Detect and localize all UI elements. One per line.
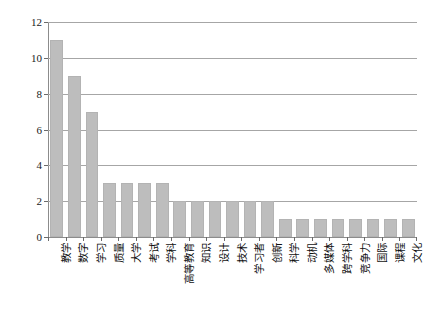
bar xyxy=(244,201,257,237)
x-tick-label: 文化 xyxy=(413,243,424,263)
x-tick-mark xyxy=(347,237,348,241)
bar xyxy=(156,183,169,237)
bar xyxy=(367,219,380,237)
x-tick-mark xyxy=(364,237,365,241)
x-tick-mark xyxy=(83,237,84,241)
bar xyxy=(68,76,81,237)
x-tick-label: 创新 xyxy=(273,243,284,263)
y-tick-label: 10 xyxy=(31,52,42,63)
x-tick-mark xyxy=(48,237,49,241)
x-tick-label: 考试 xyxy=(150,243,161,263)
plot-area xyxy=(48,22,417,237)
x-tick-mark xyxy=(312,237,313,241)
bar xyxy=(191,201,204,237)
x-axis-labels: 教学数字学习质量大学考试学科高等教育知识设计技术学习者创新科学动机多媒体跨学科竞… xyxy=(48,243,417,312)
bar xyxy=(138,183,151,237)
x-tick-mark xyxy=(241,237,242,241)
y-tick-label: 0 xyxy=(37,232,43,243)
x-tick-label: 学科 xyxy=(167,243,178,263)
x-tick-label: 学习 xyxy=(97,243,108,263)
bar xyxy=(209,201,222,237)
x-tick-mark xyxy=(259,237,260,241)
x-tick-label: 国际 xyxy=(378,243,389,263)
bar xyxy=(314,219,327,237)
x-tick-mark xyxy=(294,237,295,241)
x-tick-label: 高等教育 xyxy=(185,243,196,284)
bar xyxy=(103,183,116,237)
x-tick-mark xyxy=(101,237,102,241)
x-tick-label: 课程 xyxy=(396,243,407,263)
bar xyxy=(173,201,186,237)
x-tick-label: 竞争力 xyxy=(361,243,372,274)
x-tick-label: 质量 xyxy=(115,243,126,263)
x-tick-label: 教学 xyxy=(62,243,73,263)
x-tick-mark xyxy=(416,237,417,241)
x-tick-label: 动机 xyxy=(308,243,319,263)
bars-group xyxy=(48,22,417,237)
bar xyxy=(261,201,274,237)
x-tick-label: 学习者 xyxy=(255,243,266,274)
x-tick-mark xyxy=(171,237,172,241)
x-tick-label: 科学 xyxy=(290,243,301,263)
x-tick-mark xyxy=(329,237,330,241)
bar xyxy=(50,40,63,237)
bar xyxy=(349,219,362,237)
x-tick-label: 跨学科 xyxy=(343,243,354,274)
x-tick-mark xyxy=(66,237,67,241)
bar xyxy=(296,219,309,237)
x-tick-label: 知识 xyxy=(202,243,213,263)
y-tick-label: 2 xyxy=(37,196,43,207)
bar xyxy=(402,219,415,237)
x-tick-label: 多媒体 xyxy=(325,243,336,274)
bar xyxy=(121,183,134,237)
x-tick-label: 设计 xyxy=(220,243,231,263)
x-tick-label: 数字 xyxy=(79,243,90,263)
bar xyxy=(226,201,239,237)
x-tick-mark xyxy=(206,237,207,241)
x-tick-mark xyxy=(153,237,154,241)
x-tick-mark xyxy=(399,237,400,241)
x-tick-label: 技术 xyxy=(238,243,249,263)
y-axis: 024681012 xyxy=(0,0,42,312)
bar xyxy=(384,219,397,237)
y-tick-label: 8 xyxy=(37,88,43,99)
x-tick-mark xyxy=(189,237,190,241)
bar xyxy=(279,219,292,237)
bar xyxy=(86,112,99,237)
bar xyxy=(332,219,345,237)
y-tick-label: 12 xyxy=(31,17,42,28)
y-tick-label: 4 xyxy=(37,160,43,171)
bar-chart: 024681012 教学数字学习质量大学考试学科高等教育知识设计技术学习者创新科… xyxy=(0,0,428,312)
x-tick-mark xyxy=(118,237,119,241)
x-tick-mark xyxy=(382,237,383,241)
x-tick-mark xyxy=(276,237,277,241)
x-tick-mark xyxy=(136,237,137,241)
x-tick-label: 大学 xyxy=(132,243,143,263)
x-tick-mark xyxy=(224,237,225,241)
y-tick-label: 6 xyxy=(37,124,43,135)
